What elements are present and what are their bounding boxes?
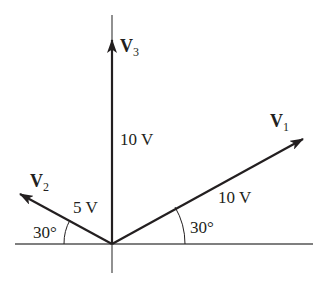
label-v1-name: V1 [270,111,289,134]
label-v1-magnitude: 10 V [218,188,252,207]
angle-arc-v1 [175,207,185,244]
label-v3-magnitude: 10 V [120,130,154,149]
label-v1-angle: 30° [190,218,214,237]
label-v2-angle: 30° [33,223,57,242]
label-v2-magnitude: 5 V [73,198,98,217]
label-v3-name: V3 [120,36,139,59]
phasor-diagram: V3 10 V V1 10 V 30° V2 5 V 30° [0,0,330,289]
angle-arc-v2 [64,220,70,244]
label-v2-name: V2 [30,171,49,194]
